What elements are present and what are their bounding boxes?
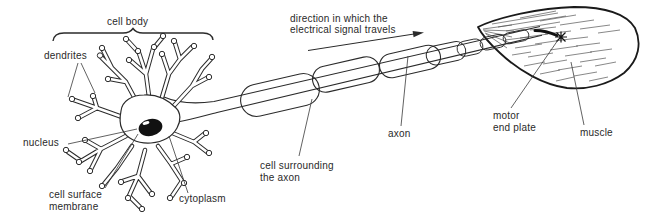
label-axon: axon	[388, 128, 411, 140]
dendrites-leader-line	[68, 63, 95, 97]
neuron-muscle-diagram: cell body dendrites nucleus cell surface…	[0, 0, 653, 219]
label-nucleus: nucleus	[23, 137, 59, 149]
label-muscle: muscle	[580, 127, 613, 139]
cell-surrounding-axon-leader-line	[299, 99, 312, 156]
schwann-cell-capsule	[237, 70, 322, 119]
schwann-cell-capsule	[456, 38, 485, 58]
muscle-shape	[478, 7, 639, 88]
label-signal-direction: direction in which the electrical signal…	[290, 13, 396, 35]
label-motor-end-plate-line1: motor	[493, 110, 536, 122]
label-cell-surrounding-axon-line1: cell surrounding	[260, 160, 334, 172]
label-cell-surface-membrane-line1: cell surface	[49, 189, 102, 201]
label-signal-direction-line2: electrical signal travels	[290, 24, 396, 35]
axon-lower-line	[161, 35, 542, 125]
label-cytoplasm: cytoplasm	[179, 193, 226, 205]
label-cell-surface-membrane: cell surface membrane	[49, 189, 102, 213]
label-cell-surrounding-axon: cell surrounding the axon	[260, 160, 334, 183]
label-cell-surface-membrane-line2: membrane	[49, 201, 102, 213]
label-motor-end-plate: motor end plate	[493, 110, 536, 134]
label-cell-body: cell body	[107, 16, 148, 28]
schwann-cell-capsule	[424, 40, 467, 67]
axon-leader-line	[401, 56, 408, 126]
label-motor-end-plate-line2: end plate	[493, 122, 536, 134]
motor-end-plate-marker	[555, 32, 567, 43]
label-cell-surrounding-axon-line2: the axon	[260, 172, 334, 184]
label-dendrites: dendrites	[44, 50, 87, 62]
schwann-cell-capsule	[310, 54, 382, 95]
cell-body-brace	[53, 29, 213, 42]
arrowhead	[413, 31, 424, 37]
muscle-outline	[478, 7, 639, 88]
label-signal-direction-line1: direction in which the	[290, 13, 396, 24]
